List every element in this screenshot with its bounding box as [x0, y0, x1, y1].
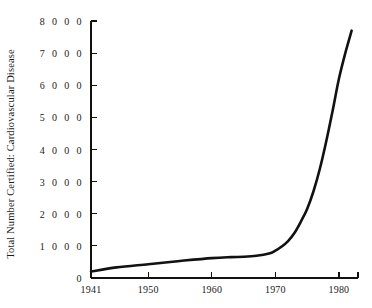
- x-tick-label: 1980: [329, 284, 350, 295]
- y-tick-label: 1 0 0 0: [40, 240, 84, 251]
- axis-lines: [91, 21, 358, 278]
- y-tick-label: 2 0 0 0: [40, 208, 84, 219]
- x-tick-label: 1970: [265, 284, 286, 295]
- x-tick-label: 1960: [201, 284, 222, 295]
- y-tick-label: 6 0 0 0: [40, 80, 84, 91]
- x-tick-label: 1950: [138, 284, 159, 295]
- y-axis-ticks: [91, 21, 97, 278]
- y-tick-label: 5 0 0 0: [40, 112, 84, 123]
- x-axis-ticks: [91, 272, 358, 278]
- chart-figure: Total Number Certified: Cardiovascular D…: [0, 0, 372, 308]
- y-tick-label: 7 0 0 0: [40, 48, 84, 59]
- y-tick-label: 0: [77, 273, 84, 284]
- y-tick-label: 8 0 0 0: [40, 16, 84, 27]
- data-series-line: [91, 31, 352, 272]
- y-tick-label: 4 0 0 0: [40, 144, 84, 155]
- y-tick-label: 3 0 0 0: [40, 176, 84, 187]
- x-tick-label: 1941: [81, 284, 102, 295]
